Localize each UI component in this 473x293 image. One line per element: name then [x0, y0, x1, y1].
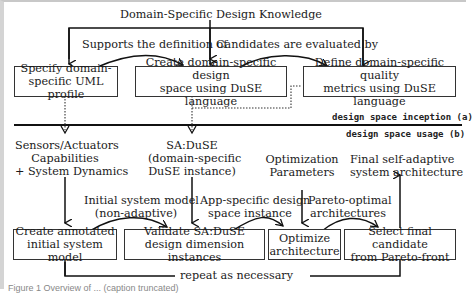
specify-uml-profile-box: Specify domain- specific UML profile	[14, 66, 118, 97]
box-line: metrics using DuSE language	[304, 82, 455, 108]
label-line: Capabilities	[15, 152, 115, 165]
optimize-architecture-box: Optimize architecture	[268, 229, 341, 260]
box-line: Validate SA:DuSE	[125, 225, 264, 238]
label-line: space instance	[200, 207, 300, 220]
label-line: system architecture	[350, 166, 454, 179]
box-line: space using DuSE language	[136, 82, 286, 108]
label-line: Optimization	[262, 153, 342, 166]
label-line: (non-adaptive)	[84, 207, 188, 220]
label-line: DuSE instance)	[148, 165, 236, 178]
label-line: Final self-adaptive	[350, 153, 454, 166]
figure-caption: Figure 1 Overview of ... (caption trunca…	[8, 283, 179, 293]
validate-saduse-box: Validate SA:DuSE design dimension instan…	[124, 229, 265, 260]
box-line: Optimize	[269, 232, 339, 245]
label-line: Initial system model	[84, 194, 188, 207]
create-design-space-box: Create domain-specific design space usin…	[135, 66, 287, 97]
box-line: Create annotated	[14, 225, 116, 238]
edge-label-evaluated: Candidates are evaluated by	[216, 38, 356, 51]
input-saduse: SA:DuSE (domain-specific DuSE instance)	[148, 139, 236, 178]
box-line: Select final candidate	[345, 225, 455, 251]
select-final-candidate-box: Select final candidate from Pareto-front	[344, 229, 456, 260]
edge-label-app-specific: App-specific design space instance	[200, 194, 300, 220]
edge-label-initial-model: Initial system model (non-adaptive)	[84, 194, 188, 220]
edge-label-supports: Supports the definition of	[82, 38, 212, 51]
box-line: initial system model	[14, 238, 116, 264]
knowledge-source-label: Domain-Specific Design Knowledge	[120, 8, 300, 21]
input-optimization-parameters: Optimization Parameters	[262, 153, 342, 179]
box-line: architecture	[269, 245, 339, 258]
label-line: App-specific design	[200, 194, 300, 207]
label-line: Parameters	[262, 166, 342, 179]
box-line: from Pareto-front	[345, 251, 455, 264]
box-line: Specify domain-	[15, 62, 117, 75]
edge-label-pareto: Pareto-optimal architectures	[308, 194, 388, 220]
box-line: Define domain-specific quality	[304, 56, 455, 82]
label-line: (domain-specific	[148, 152, 236, 165]
box-line: Create domain-specific design	[136, 56, 286, 82]
define-quality-metrics-box: Define domain-specific quality metrics u…	[303, 66, 456, 97]
label-line: Sensors/Actuators	[15, 139, 115, 152]
phase-label-usage: design space usage (b)	[346, 129, 465, 139]
label-line: architectures	[308, 207, 388, 220]
box-line: design dimension instances	[125, 238, 264, 264]
create-annotated-model-box: Create annotated initial system model	[13, 229, 117, 260]
label-line: + System Dynamics	[15, 165, 115, 178]
label-line: Pareto-optimal	[308, 194, 388, 207]
phase-label-inception: design space inception (a)	[332, 112, 473, 122]
input-sensors-actuators: Sensors/Actuators Capabilities + System …	[15, 139, 115, 178]
output-final-architecture: Final self-adaptive system architecture	[350, 153, 454, 179]
box-line: specific UML profile	[15, 75, 117, 101]
loop-label: repeat as necessary	[180, 269, 280, 282]
label-line: SA:DuSE	[148, 139, 236, 152]
